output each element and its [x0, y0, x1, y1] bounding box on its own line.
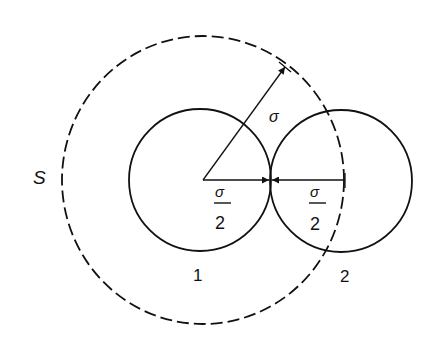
label-particle-1: 1: [193, 266, 202, 285]
label-half-sigma-1-numerator: σ: [215, 183, 225, 200]
label-sphere-s: S: [33, 167, 46, 188]
label-half-sigma-2-numerator: σ: [310, 183, 320, 200]
label-half-sigma-1-denominator: 2: [215, 213, 225, 233]
label-half-sigma-2-denominator: 2: [310, 214, 320, 234]
label-particle-2: 2: [340, 267, 349, 286]
hard-sphere-diagram: S σ σ 2 σ 2 1 2: [0, 0, 430, 341]
label-sigma-radius: σ: [269, 108, 280, 125]
particle-2-circle: [270, 110, 412, 252]
